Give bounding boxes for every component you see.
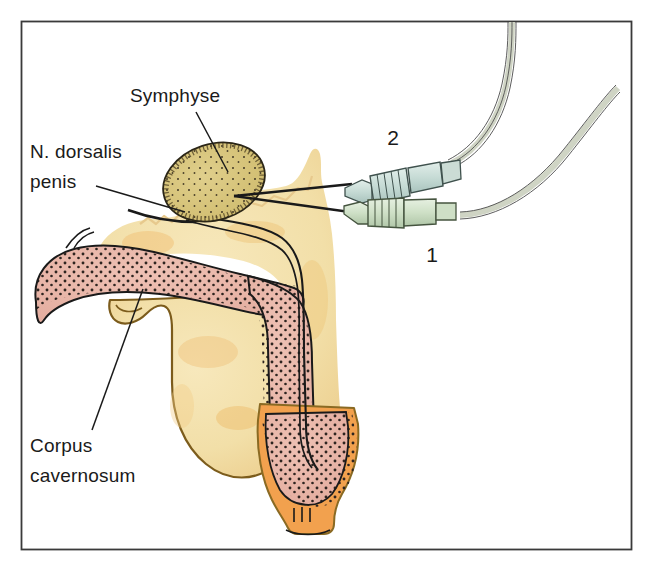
ferrule-2: [441, 160, 461, 184]
figure-container: Symphyse N. dorsalis penis Corpus cavern…: [0, 0, 653, 571]
hub-barrel-1: [404, 199, 436, 226]
label-n-dorsalis-penis-line2: penis: [30, 171, 76, 192]
luer-collar-1: [368, 198, 404, 228]
ferrule-1: [436, 203, 456, 220]
label-symphyse: Symphyse: [130, 85, 220, 106]
scrotum-shading-3: [170, 384, 194, 428]
callout-number-2: 2: [387, 126, 399, 149]
callout-number-1: 1: [426, 243, 438, 266]
scrotum-shading-1: [178, 336, 238, 368]
label-n-dorsalis-penis-line1: N. dorsalis: [30, 141, 122, 162]
scrotum-shading-2: [216, 406, 260, 430]
label-corpus-cavernosum-line1: Corpus: [30, 435, 92, 456]
label-corpus-cavernosum-line2: cavernosum: [30, 465, 136, 486]
anatomical-illustration: Symphyse N. dorsalis penis Corpus cavern…: [0, 0, 653, 571]
